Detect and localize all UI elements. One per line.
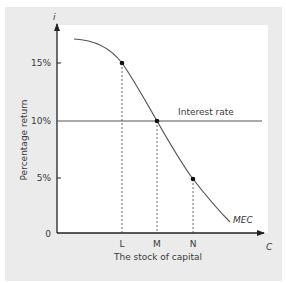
- mec-label: MEC: [233, 215, 253, 225]
- mec-chart: i C 15% 10% 5% 0 L M N The stock of capi…: [0, 0, 286, 283]
- point-L: [120, 61, 125, 66]
- origin-label: 0: [45, 229, 51, 239]
- x-tick-label-N: N: [190, 239, 197, 249]
- y-tick-label-15: 15%: [31, 58, 51, 68]
- y-tick-label-5: 5%: [37, 173, 52, 183]
- interest-rate-label: Interest rate: [178, 107, 234, 117]
- y-tick-label-10: 10%: [31, 116, 51, 126]
- y-axis-symbol: i: [53, 12, 56, 22]
- x-axis-symbol: C: [266, 242, 273, 252]
- point-M: [155, 119, 160, 124]
- point-N: [191, 177, 196, 182]
- plot-area: [57, 25, 268, 233]
- x-axis-label: The stock of capital: [113, 252, 202, 262]
- x-tick-label-M: M: [153, 239, 161, 249]
- x-tick-label-L: L: [119, 239, 124, 249]
- y-axis-label: Percentage return: [19, 99, 29, 180]
